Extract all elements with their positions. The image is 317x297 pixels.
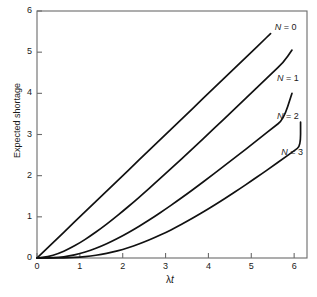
chart-figure: 0123456 0123456 N = 0N = 1N = 2N = 3 Exp… — [0, 0, 317, 297]
curve-n-0 — [37, 34, 271, 258]
y-tick-label: 1 — [18, 212, 32, 221]
x-tick-label: 5 — [244, 262, 258, 271]
series-label-n-3: N = 3 — [281, 148, 303, 157]
y-tick-label: 0 — [18, 253, 32, 262]
series-label-n-1: N = 1 — [277, 74, 299, 83]
x-axis-title: λt — [120, 275, 220, 285]
y-tick-label: 6 — [18, 6, 32, 15]
series-label-n-2: N = 2 — [277, 112, 299, 121]
t-symbol: t — [171, 274, 174, 285]
series-label-value: = 1 — [284, 73, 299, 83]
plot-frame — [37, 11, 307, 258]
curve-n-3 — [37, 122, 301, 258]
chart-canvas — [0, 0, 317, 297]
series-label-value: = 0 — [281, 22, 296, 32]
curve-group — [37, 34, 301, 258]
y-tick-label: 5 — [18, 47, 32, 56]
x-tick-label: 0 — [30, 262, 44, 271]
x-tick-label: 1 — [73, 262, 87, 271]
x-tick-label: 3 — [159, 262, 173, 271]
x-tick-label: 4 — [201, 262, 215, 271]
curve-n-1 — [37, 50, 292, 258]
series-label-value: = 2 — [284, 111, 299, 121]
series-label-n-0: N = 0 — [275, 23, 297, 32]
x-tick-label: 6 — [287, 262, 301, 271]
x-tick-label: 2 — [116, 262, 130, 271]
series-label-value: = 3 — [288, 147, 303, 157]
y-axis-title: Expected shortage — [13, 61, 22, 181]
